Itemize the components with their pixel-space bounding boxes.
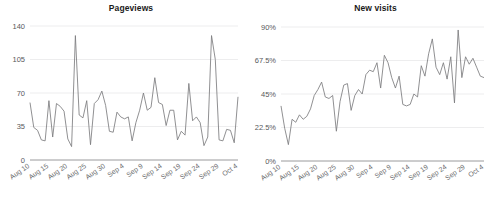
y-axis-tick-label: 35: [17, 122, 25, 131]
new-visits-chart: New visits 0%22.5%45%67.5%90%Aug 10Aug 1…: [244, 0, 489, 211]
x-axis-tick-label: Aug 10: [8, 162, 31, 181]
y-axis-tick-label: 22.5%: [255, 123, 277, 132]
x-axis-tick-label: Aug 25: [65, 162, 88, 181]
y-axis-tick-label: 67.5%: [255, 56, 277, 65]
x-axis-tick-label: Aug 20: [296, 163, 319, 182]
x-axis-tick-label: Aug 15: [27, 162, 50, 181]
x-axis-tick-label: Oct 4: [221, 162, 239, 177]
analytics-dashboard: Pageviews 03570105140Aug 10Aug 15Aug 20A…: [0, 0, 489, 211]
x-axis-tick-label: Sep 29: [197, 162, 220, 181]
x-axis-tick-label: Aug 10: [259, 163, 282, 182]
y-axis-tick-label: 70: [17, 89, 25, 98]
x-axis-tick-label: Aug 20: [46, 162, 69, 181]
x-axis-tick-label: Aug 30: [333, 163, 356, 182]
x-axis-tick-label: Sep 24: [425, 163, 448, 182]
y-axis-tick-label: 140: [12, 22, 25, 31]
new-visits-plot-svg: 0%22.5%45%67.5%90%Aug 10Aug 15Aug 20Aug …: [244, 0, 489, 211]
x-axis-tick-label: Aug 30: [84, 162, 107, 181]
y-axis-tick-label: 105: [12, 55, 25, 64]
x-axis-tick-label: Sep 4: [106, 162, 126, 179]
pageviews-plot-svg: 03570105140Aug 10Aug 15Aug 20Aug 25Aug 3…: [0, 0, 244, 211]
x-axis-tick-label: Sep 19: [407, 163, 430, 182]
y-axis-tick-label: 90%: [261, 23, 276, 32]
x-axis-tick-label: Sep 19: [160, 162, 183, 181]
x-axis-tick-label: Sep 14: [389, 163, 412, 182]
x-axis-tick-label: Aug 15: [278, 163, 301, 182]
x-axis-tick-label: Sep 4: [355, 163, 375, 180]
x-axis-tick-label: Sep 29: [444, 163, 467, 182]
pageviews-chart: Pageviews 03570105140Aug 10Aug 15Aug 20A…: [0, 0, 244, 211]
x-axis-tick-label: Oct 4: [467, 163, 485, 178]
x-axis-tick-label: Sep 14: [141, 162, 164, 181]
new-visits-plot-area: 0%22.5%45%67.5%90%Aug 10Aug 15Aug 20Aug …: [244, 0, 489, 211]
y-axis-tick-label: 45%: [261, 90, 276, 99]
x-axis-tick-label: Sep 24: [179, 162, 202, 181]
x-axis-tick-label: Aug 25: [315, 163, 338, 182]
data-series-line: [30, 36, 238, 147]
pageviews-plot-area: 03570105140Aug 10Aug 15Aug 20Aug 25Aug 3…: [0, 0, 244, 211]
